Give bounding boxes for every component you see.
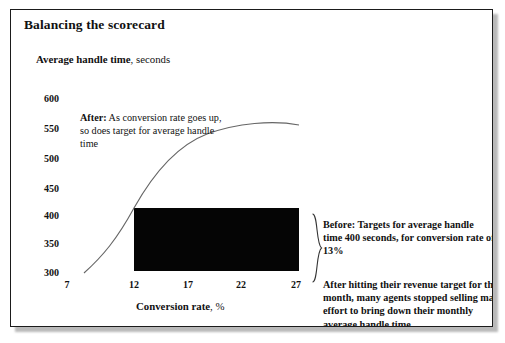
y-tick-label: 450 <box>25 183 59 194</box>
before-target-block <box>134 208 299 271</box>
y-tick-label: 550 <box>25 123 59 134</box>
y-tick-label: 400 <box>25 210 59 221</box>
y-tick-label: 600 <box>25 93 59 104</box>
annotation-after-lead: After: <box>80 112 107 123</box>
x-tick-label: 22 <box>228 279 254 290</box>
annotation-after: After: As conversion rate goes up, so do… <box>80 111 230 151</box>
annotation-note: After hitting their revenue target for t… <box>323 278 493 327</box>
curly-brace-icon <box>311 213 323 283</box>
annotation-before-lead: Before: <box>323 219 355 230</box>
x-tick-label: 17 <box>175 279 201 290</box>
figure-card: Balancing the scorecard Average handle t… <box>10 9 493 327</box>
y-tick-label: 350 <box>25 238 59 249</box>
y-tick-label: 500 <box>25 153 59 164</box>
x-tick-label: 27 <box>283 279 309 290</box>
x-tick-label: 7 <box>54 279 80 290</box>
y-tick-label: 300 <box>25 267 59 278</box>
annotation-before: Before: Targets for average handle time … <box>323 218 493 258</box>
x-tick-label: 12 <box>121 279 147 290</box>
